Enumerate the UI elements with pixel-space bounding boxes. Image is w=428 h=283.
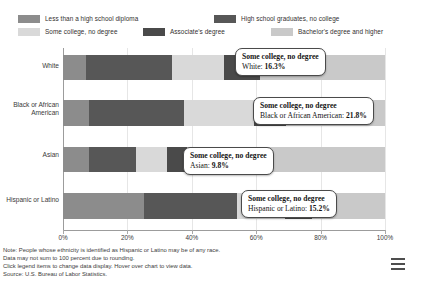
x-axis-tick-label: 60% (250, 234, 263, 241)
stacked-bar[interactable] (63, 55, 385, 80)
legend-swatch-icon (214, 15, 236, 23)
legend-row-2: Some college, no degreeAssociate's degre… (18, 26, 418, 37)
tooltip-title: Some college, no degree (248, 194, 330, 204)
gridline (385, 48, 386, 230)
x-axis-tick-label: 100% (377, 234, 393, 241)
footnote-line: Data may not sum to 100 percent due to r… (3, 254, 333, 262)
chart-footnotes: Note: People whose ethnicity is identifi… (3, 246, 333, 278)
chart-widget: Less than a high school diplomaHigh scho… (0, 0, 428, 283)
x-axis-tick-label: 20% (121, 234, 134, 241)
chart-legend: Less than a high school diplomaHigh scho… (18, 13, 418, 39)
y-axis-label: Asian (0, 151, 59, 159)
tooltip-value: Asian: 9.8% (190, 161, 267, 171)
legend-item-label: Bachelor's degree and higher (298, 27, 383, 36)
x-axis-tick-labels: 0%20%40%60%80%100% (63, 234, 386, 244)
data-tooltip: Some college, no degreeAsian: 9.8% (183, 147, 274, 175)
footnote-line: Source: U.S. Bureau of Labor Statistics. (3, 270, 333, 278)
legend-item-3[interactable]: Associate's degree (143, 26, 225, 37)
tooltip-value: White: 16.3% (242, 62, 319, 72)
x-axis-tick-label: 0% (58, 234, 67, 241)
bar-segment[interactable] (136, 147, 168, 172)
x-axis-tick-label: 40% (185, 234, 198, 241)
footnote-line: Click legend items to change data displa… (3, 262, 333, 270)
legend-row-1: Less than a high school diplomaHigh scho… (18, 13, 418, 24)
legend-item-label: Associate's degree (170, 27, 225, 36)
legend-swatch-icon (18, 28, 40, 36)
bar-segment[interactable] (172, 55, 224, 80)
tooltip-title: Some college, no degree (190, 151, 267, 161)
bar-segment[interactable] (184, 100, 254, 126)
y-axis-label: Hispanic or Latino (0, 196, 59, 204)
bar-segment[interactable] (63, 55, 86, 80)
legend-item-label: Less than a high school diploma (45, 14, 138, 23)
tooltip-value: Black or African American: 21.8% (260, 111, 367, 121)
legend-swatch-icon (271, 28, 293, 36)
footnote-line: Note: People whose ethnicity is identifi… (3, 246, 333, 254)
legend-item-1[interactable]: High school graduates, no college (214, 13, 339, 24)
legend-item-label: High school graduates, no college (241, 14, 339, 23)
bar-segment[interactable] (89, 147, 136, 172)
tooltip-title: Some college, no degree (242, 52, 319, 62)
bar-segment[interactable] (63, 147, 89, 172)
data-tooltip: Some college, no degreeHispanic or Latin… (241, 190, 337, 218)
y-axis-labels: WhiteBlack or African AmericanAsianHispa… (0, 48, 59, 230)
bar-segment[interactable] (63, 193, 144, 219)
legend-item-4[interactable]: Bachelor's degree and higher (271, 26, 383, 37)
y-axis-label: White (0, 62, 59, 70)
tooltip-title: Some college, no degree (260, 101, 367, 111)
legend-item-2[interactable]: Some college, no degree (18, 26, 118, 37)
x-axis-tick-label: 80% (314, 234, 327, 241)
legend-swatch-icon (143, 28, 165, 36)
tooltip-value: Hispanic or Latino: 15.2% (248, 204, 330, 214)
legend-swatch-icon (18, 15, 40, 23)
data-tooltip: Some college, no degreeWhite: 16.3% (235, 48, 326, 76)
x-axis-line (63, 230, 386, 231)
legend-item-0[interactable]: Less than a high school diploma (18, 13, 138, 24)
bar-segment[interactable] (63, 100, 89, 126)
y-axis-label: Black or African American (0, 101, 59, 118)
hamburger-menu-icon[interactable] (391, 258, 405, 270)
bar-segment[interactable] (89, 100, 184, 126)
bar-row[interactable] (63, 55, 385, 80)
bar-segment[interactable] (144, 193, 236, 219)
bar-segment[interactable] (86, 55, 172, 80)
legend-item-label: Some college, no degree (45, 27, 118, 36)
data-tooltip: Some college, no degreeBlack or African … (253, 97, 374, 125)
